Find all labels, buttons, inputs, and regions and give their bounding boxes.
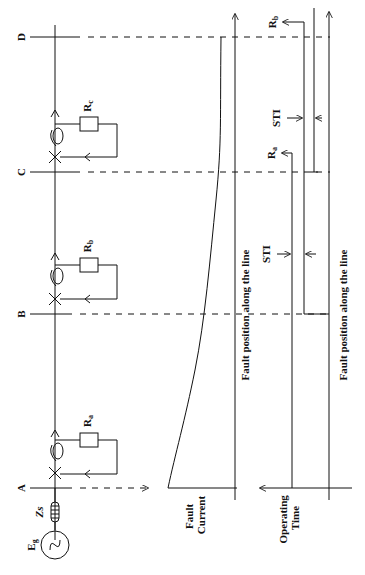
relay-rc-label: Rc — [81, 100, 95, 112]
bus-d: D — [15, 33, 330, 41]
relay-rb-box — [80, 258, 98, 272]
svg-text:C: C — [15, 168, 27, 176]
svg-text:D: D — [15, 33, 27, 41]
ra-curve-label: Ra — [265, 147, 279, 159]
relay-rb-label: Rb — [81, 239, 95, 252]
relay-rc — [49, 117, 117, 163]
relay-ra-time-curve — [282, 153, 292, 488]
svg-text:A: A — [15, 484, 27, 492]
bus-b: B — [15, 310, 330, 318]
relay-rb — [49, 258, 117, 305]
rb-curve-label: Rb — [266, 15, 280, 28]
relay-ra-box — [80, 433, 98, 447]
svg-text:B: B — [15, 310, 27, 318]
sti-label-lower: STI — [260, 245, 272, 263]
fault-current-curve — [168, 37, 221, 488]
bus-c: C — [15, 168, 330, 176]
fault-current-ylabel: Fault Current — [183, 496, 207, 535]
operating-time-xlabel: Fault position along the line — [337, 249, 349, 380]
relay-ra-label: Ra — [81, 415, 95, 427]
source-impedance-label: Zs — [33, 507, 45, 519]
operating-time-ylabel: Operating Time — [277, 492, 301, 543]
source-label: Eg — [25, 539, 39, 550]
relay-rc-box — [80, 117, 98, 131]
fault-current-xlabel: Fault position along the line — [239, 249, 251, 380]
sti-label-upper: STI — [270, 109, 282, 127]
bus-a: A — [15, 484, 148, 492]
fault-current-plot — [168, 14, 237, 500]
protection-coordination-diagram: D C B A Rc — [0, 0, 365, 575]
relay-rb-time-curve — [283, 22, 329, 314]
relay-ra — [49, 433, 117, 479]
